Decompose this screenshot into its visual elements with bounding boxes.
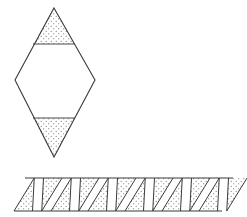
nets-illustration xyxy=(0,0,247,217)
strip-shaded-faces xyxy=(14,178,247,211)
diamond-bottom-triangle-face xyxy=(33,118,75,157)
diamond-net-group xyxy=(15,8,95,157)
strip-net-group xyxy=(14,178,247,211)
diagram-canvas xyxy=(0,0,247,217)
diamond-top-triangle-face xyxy=(33,8,75,44)
